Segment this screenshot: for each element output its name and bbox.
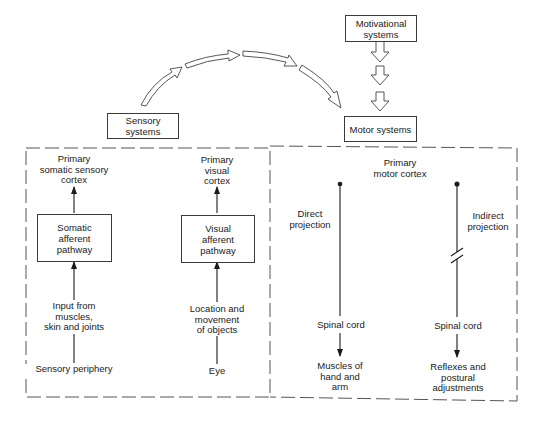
somatic-sensory-cortex-label: Primary somatic sensory cortex [34, 154, 114, 186]
indirect-spinal-cord-label: Spinal cord [430, 321, 486, 332]
motivational-down-arrows [371, 41, 389, 111]
direct-projection-label: Direct projection [280, 209, 340, 230]
sensorimotor-diagram: Motivational systems Sensory systems Mot… [0, 0, 543, 425]
somatic-afferent-pathway-box: Somatic afferent pathway [37, 214, 112, 262]
direct-spinal-cord-label: Spinal cord [313, 320, 369, 331]
sensory-to-motor-arrows [141, 50, 341, 108]
eye-label: Eye [202, 366, 232, 377]
visual-afferent-pathway-box: Visual afferent pathway [181, 215, 255, 263]
visual-cortex-label: Primary visual cortex [187, 155, 247, 187]
visual-input-label: Location and movement of objects [182, 304, 252, 336]
reflexes-postural-label: Reflexes and postural adjustments [420, 362, 496, 394]
muscles-hand-arm-label: Muscles of hand and arm [310, 361, 370, 393]
motivational-systems-box: Motivational systems [345, 15, 417, 42]
sensory-systems-box: Sensory systems [107, 113, 179, 139]
primary-motor-cortex-label: Primary motor cortex [362, 158, 438, 179]
somatic-input-label: Input from muscles, skin and joints [34, 301, 114, 333]
motor-systems-box: Motor systems [344, 116, 417, 142]
sensory-periphery-label: Sensory periphery [24, 364, 124, 375]
indirect-projection-label: Indirect projection [463, 211, 513, 232]
